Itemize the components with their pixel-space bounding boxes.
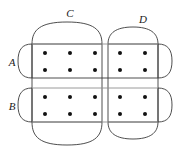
- set-label-b: B: [9, 100, 16, 112]
- element-dot: [118, 95, 122, 99]
- set-c-outline: [32, 22, 102, 44]
- set-a-outline: [18, 44, 32, 78]
- element-dot: [118, 51, 122, 55]
- element-dot: [43, 68, 47, 72]
- element-dot: [68, 68, 72, 72]
- element-dot: [68, 51, 72, 55]
- element-dot: [43, 51, 47, 55]
- element-dot: [93, 68, 97, 72]
- element-dot: [143, 112, 147, 116]
- element-dot: [118, 112, 122, 116]
- element-dot: [93, 95, 97, 99]
- set-label-c: C: [66, 7, 74, 19]
- set-d-outline: [108, 27, 158, 44]
- set-b-outline-right: [158, 88, 172, 122]
- set-diagram-canvas: A B C D: [0, 0, 188, 157]
- element-dot-layer: [43, 51, 147, 116]
- element-dot: [43, 112, 47, 116]
- element-dot: [43, 95, 47, 99]
- set-label-d: D: [138, 13, 147, 25]
- element-dot: [143, 95, 147, 99]
- set-d-outline-lower: [108, 122, 158, 139]
- element-dot: [143, 51, 147, 55]
- element-dot: [93, 112, 97, 116]
- set-a-outline-right: [158, 44, 172, 78]
- element-dot: [68, 95, 72, 99]
- set-diagram-figure: A B C D: [0, 0, 188, 157]
- set-c-outline-lower: [32, 122, 102, 145]
- element-dot: [93, 51, 97, 55]
- set-label-a: A: [8, 56, 16, 68]
- element-dot: [68, 112, 72, 116]
- element-dot: [118, 68, 122, 72]
- set-b-outline: [18, 88, 32, 122]
- element-dot: [143, 68, 147, 72]
